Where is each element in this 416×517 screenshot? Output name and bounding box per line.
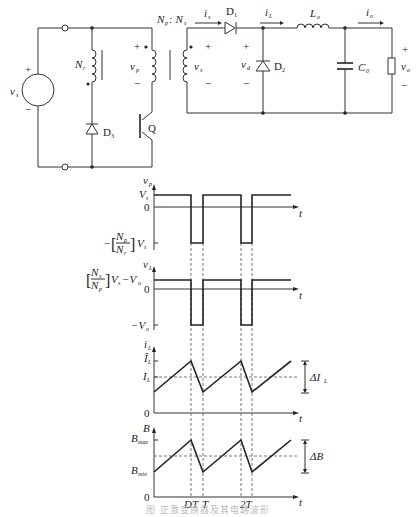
svg-text:0: 0: [144, 407, 150, 419]
svg-text:r: r: [124, 250, 127, 256]
vL-waveform: v L 0 t [ N s N p ] V s −V o −V o: [86, 258, 303, 332]
svg-text:L: L: [146, 377, 151, 383]
svg-text:B: B: [131, 432, 138, 444]
svg-text:2: 2: [282, 67, 285, 73]
svg-text:B: B: [131, 464, 138, 476]
svg-text:0: 0: [366, 68, 369, 74]
svg-text:p: p: [98, 286, 102, 292]
inductor-lo-icon: [297, 24, 329, 28]
svg-text:N: N: [115, 243, 124, 255]
diode-d1-icon: [225, 22, 235, 34]
svg-text:−V: −V: [122, 273, 137, 285]
svg-text:t: t: [299, 207, 303, 219]
figure-caption: 图 正激变换器及其电路波形: [0, 503, 416, 516]
svg-text:v: v: [143, 258, 148, 270]
svg-text:max: max: [138, 439, 148, 445]
svg-text:s: s: [200, 67, 203, 73]
forward-converter-figure: + − v s N r D 3 + − v p Q N p : N: [0, 0, 416, 517]
svg-text:s: s: [99, 273, 102, 279]
svg-text:p: p: [164, 20, 168, 26]
svg-text:0: 0: [144, 283, 150, 295]
svg-text:r: r: [83, 65, 86, 71]
svg-text:ΔI: ΔI: [309, 371, 321, 383]
svg-text:i: i: [265, 6, 268, 18]
svg-text:3: 3: [111, 133, 114, 139]
svg-text:o: o: [317, 14, 320, 20]
svg-text:N: N: [90, 279, 99, 291]
svg-text:−: −: [205, 77, 211, 89]
svg-text:p: p: [123, 237, 127, 243]
svg-text:L: L: [147, 345, 152, 351]
svg-text:D: D: [103, 126, 111, 138]
svg-text:s: s: [208, 14, 211, 20]
svg-text:D: D: [274, 60, 282, 72]
svg-text:Q: Q: [148, 122, 156, 134]
svg-text:D: D: [226, 5, 234, 17]
B-waveform: B B max B min 0 t ΔB DT T 2T: [131, 422, 323, 510]
svg-text:+: +: [25, 63, 31, 75]
svg-text:s: s: [118, 280, 121, 286]
svg-text:N: N: [115, 230, 124, 242]
svg-text:v: v: [241, 58, 246, 70]
svg-text:L: L: [309, 7, 316, 19]
svg-text:−: −: [25, 103, 31, 115]
svg-text:p: p: [135, 67, 139, 73]
svg-text:+: +: [243, 40, 249, 52]
svg-text:i: i: [366, 6, 369, 18]
svg-text:d: d: [247, 65, 251, 71]
svg-text:ΔB: ΔB: [309, 450, 323, 462]
svg-text:C: C: [358, 61, 366, 73]
svg-text:o: o: [146, 326, 149, 332]
svg-text:]: ]: [105, 272, 110, 289]
svg-text:+: +: [205, 40, 211, 52]
svg-text:s: s: [144, 244, 147, 250]
svg-text:L: L: [147, 359, 152, 365]
svg-text:t: t: [299, 289, 303, 301]
svg-text:min: min: [138, 471, 147, 477]
time-guides: [191, 243, 252, 497]
vp-waveform: v p V s 0 t − [ N p N r ] V s: [104, 174, 303, 256]
svg-text:o: o: [407, 67, 410, 73]
svg-text:+: +: [134, 40, 140, 52]
svg-text:−: −: [243, 77, 249, 89]
diode-d2-icon: [256, 61, 270, 71]
svg-text:v: v: [10, 85, 15, 97]
svg-text:N: N: [156, 13, 165, 25]
svg-text:o: o: [370, 13, 373, 19]
svg-text:−V: −V: [131, 319, 146, 331]
svg-text:N: N: [90, 266, 99, 278]
svg-text:N: N: [74, 58, 83, 70]
svg-text:+: +: [402, 43, 408, 55]
reset-winding-icon: [92, 50, 96, 82]
circuit-diagram: + − v s N r D 3 + − v p Q N p : N: [10, 5, 410, 170]
voltage-source-icon: [22, 74, 54, 106]
svg-text:s: s: [16, 92, 19, 98]
load-resistor-icon: [388, 58, 395, 74]
svg-text:0: 0: [144, 201, 150, 213]
svg-text:L: L: [323, 378, 328, 384]
svg-text:v: v: [143, 174, 148, 186]
svg-text:i: i: [204, 7, 207, 19]
svg-text:0: 0: [144, 491, 150, 503]
terminal-bottom: [62, 164, 68, 170]
svg-text:o: o: [138, 280, 141, 286]
svg-text:L: L: [148, 265, 153, 271]
diode-d3-icon: [86, 124, 98, 134]
svg-text:p: p: [148, 181, 152, 187]
svg-text:v: v: [401, 60, 406, 72]
svg-text:1: 1: [234, 12, 237, 18]
primary-winding-icon: [152, 50, 156, 82]
svg-text:t: t: [299, 412, 303, 424]
svg-text:v: v: [130, 60, 135, 72]
svg-text:−: −: [134, 77, 140, 89]
secondary-winding-icon: [183, 50, 187, 82]
svg-text:s: s: [184, 20, 187, 26]
iL-waveform: i L Î L I L 0 t ΔI L: [142, 338, 328, 424]
svg-text:−: −: [104, 237, 110, 249]
svg-text:i: i: [144, 338, 147, 350]
svg-text:−: −: [401, 79, 407, 91]
svg-text:v: v: [194, 60, 199, 72]
svg-text:B: B: [143, 422, 150, 434]
svg-text:: N: : N: [169, 13, 183, 25]
terminal-top: [62, 25, 68, 31]
